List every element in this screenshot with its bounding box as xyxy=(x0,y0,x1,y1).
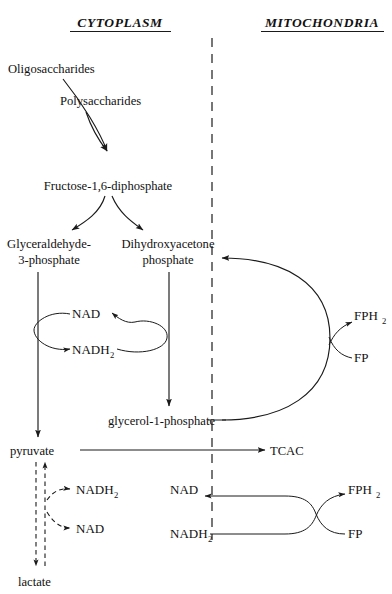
label-lactate: lactate xyxy=(18,575,51,589)
label-fp-lower: FP xyxy=(348,526,362,541)
label-nad-upper-text: NAD xyxy=(72,306,100,321)
label-polysaccharides: Polysaccharides xyxy=(60,94,141,108)
header-mitochondria: MITOCHONDRIA xyxy=(261,15,384,32)
label-nad-lactate-text: NAD xyxy=(76,521,104,536)
label-dhap-line1: Dihydroxyacetone xyxy=(121,237,214,251)
header-cytoplasm-label: CYTOPLASM xyxy=(77,15,163,30)
label-glycerol-1-phosphate: glycerol-1-phosphate xyxy=(108,414,215,428)
label-nadh2-upper-sub: 2 xyxy=(110,350,114,360)
label-fructose-1-6-diphosphate: Fructose-1,6-diphosphate xyxy=(44,179,173,193)
label-gap-line1: Glyceraldehyde- xyxy=(7,237,91,251)
label-dhap-line2: phosphate xyxy=(142,253,193,267)
label-pyruvate: pyruvate xyxy=(10,444,54,458)
label-nadh2-lactate-text: NADH xyxy=(76,482,114,497)
label-fp-upper-text: FP xyxy=(354,350,368,365)
label-nad-upper: NAD xyxy=(72,306,100,321)
label-tcac: TCAC xyxy=(270,444,304,458)
canvas-background xyxy=(0,0,392,594)
header-cytoplasm: CYTOPLASM xyxy=(70,15,171,32)
label-nad-lower: NAD xyxy=(170,482,198,497)
header-mitochondria-label: MITOCHONDRIA xyxy=(264,15,379,30)
label-nadh2-upper-text: NADH xyxy=(72,342,110,357)
label-nad-lactate: NAD xyxy=(76,521,104,536)
label-oligosaccharides: Oligosaccharides xyxy=(8,62,95,76)
label-nadh2-lactate-sub: 2 xyxy=(114,490,118,500)
label-fph2-upper-text: FPH xyxy=(354,308,378,323)
label-nadh2-lower-text: NADH xyxy=(170,526,208,541)
label-fp-lower-text: FP xyxy=(348,526,362,541)
label-fph2-lower-sub: 2 xyxy=(376,490,380,500)
label-fph2-lower-text: FPH xyxy=(348,482,372,497)
label-nad-lower-text: NAD xyxy=(170,482,198,497)
label-gap-line2: 3-phosphate xyxy=(18,253,80,267)
label-fph2-upper-sub: 2 xyxy=(382,316,386,326)
diagram-root: CYTOPLASM MITOCHONDRIA Oligosaccharides … xyxy=(0,0,392,594)
label-fp-upper: FP xyxy=(354,350,368,365)
label-nadh2-lower-sub: 2 xyxy=(208,534,212,544)
glycolysis-shuttle-diagram: CYTOPLASM MITOCHONDRIA Oligosaccharides … xyxy=(0,0,392,594)
